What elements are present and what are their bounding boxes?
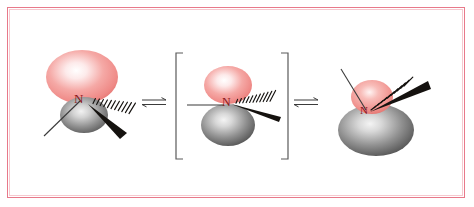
figure-root: N N N [0,0,474,207]
diagram-canvas [0,0,474,207]
equilibrium-arrow-left [142,98,166,107]
p-orbital-bottom-lobe-gray [201,104,255,146]
structure-center-planar [187,66,281,146]
bracket-left [176,53,183,159]
atom-label-nitrogen-right: N [360,105,368,116]
structure-left-pyramidal [44,50,135,139]
structure-right-pyramidal-inverted [338,69,431,156]
chemistry-diagram-svg [0,0,474,207]
atom-label-nitrogen-left: N [74,92,83,105]
bracket-right [281,53,288,159]
equilibrium-arrow-right [294,98,318,107]
atom-label-nitrogen-center: N [222,96,231,108]
